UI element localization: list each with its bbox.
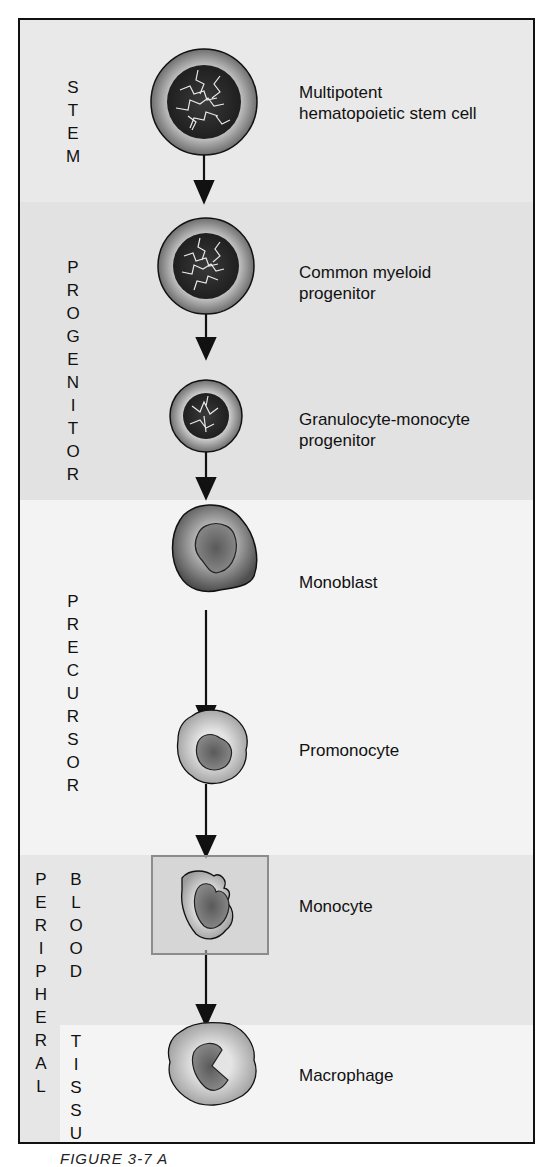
monoblast-icon [173, 505, 257, 592]
stem-cell-icon [151, 49, 257, 155]
cell-name-line2: hematopoietic stem cell [299, 103, 477, 124]
cell-name-line2: progenitor [299, 283, 431, 304]
promonocyte-icon [178, 710, 248, 783]
cell-name-line2: progenitor [299, 430, 470, 451]
granulocyte-monocyte-progenitor-icon [170, 380, 242, 452]
cell-name: Common myeloid [299, 262, 431, 283]
macrophage-icon [168, 1022, 256, 1105]
diagram-frame: STEM PROGENITOR PRECURSOR PERIPHERAL BLO… [18, 18, 535, 1144]
cell-name: Granulocyte-monocyte [299, 409, 470, 430]
cell-label-gm-progenitor: Granulocyte-monocyte progenitor [299, 409, 470, 451]
cell-label-monoblast: Monoblast [299, 572, 377, 593]
cell-label-stem: Multipotent hematopoietic stem cell [299, 82, 477, 124]
figure-caption: FIGURE 3-7 A [60, 1150, 168, 1167]
cell-label-common-myeloid: Common myeloid progenitor [299, 262, 431, 304]
cell-label-monocyte: Monocyte [299, 896, 373, 917]
cell-name: Multipotent [299, 82, 477, 103]
cell-label-promonocyte: Promonocyte [299, 740, 399, 761]
common-myeloid-progenitor-icon [158, 218, 254, 314]
cell-lineage-graphic [20, 20, 535, 1144]
cell-label-macrophage: Macrophage [299, 1065, 394, 1086]
